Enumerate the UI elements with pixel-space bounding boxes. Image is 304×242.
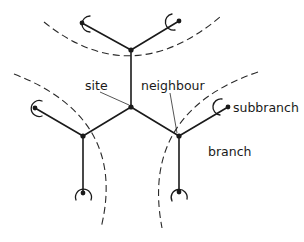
neighbour-node bbox=[176, 133, 181, 138]
branch-label: branch bbox=[208, 144, 251, 159]
subbranch-tip-bottom-right bbox=[177, 190, 182, 195]
top-node bbox=[128, 47, 133, 52]
edge-top-right-sub bbox=[131, 21, 179, 50]
subbranch-label: subbranch bbox=[233, 100, 299, 115]
edge-center-lowerright bbox=[131, 107, 179, 136]
edge-center-lowerleft bbox=[83, 107, 131, 136]
branching-tree-diagram: site neighbour subbranch branch bbox=[0, 0, 304, 242]
edge-lowerright-right-sub bbox=[179, 107, 228, 136]
left-branch-boundary bbox=[14, 74, 106, 228]
site-node bbox=[128, 104, 133, 109]
edge-lowerleft-left-sub bbox=[35, 108, 83, 136]
subbranch-tip-bottom-left bbox=[81, 191, 86, 196]
subbranch-tip-top-right bbox=[177, 19, 182, 24]
neighbour-label: neighbour bbox=[141, 78, 205, 93]
lower-left-node bbox=[80, 133, 85, 138]
site-leader-line bbox=[100, 92, 129, 105]
edge-top-left-sub bbox=[82, 23, 131, 50]
subbranch-tip-left bbox=[33, 106, 38, 111]
subbranch-tip-right bbox=[226, 105, 231, 110]
subbranch-cup-top-right bbox=[165, 14, 175, 30]
site-label: site bbox=[85, 78, 108, 93]
neighbour-leader-line bbox=[170, 93, 177, 133]
